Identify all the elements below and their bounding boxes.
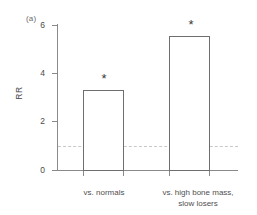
bar-vs-normals xyxy=(83,90,124,171)
y-tick-label-4: 4 xyxy=(31,73,45,74)
x-category-label-2-line-1: vs. high bone mass, xyxy=(162,188,233,197)
bar-vs-high-bone-mass-slow-losers xyxy=(169,36,210,171)
x-tick-mark-3 xyxy=(169,171,170,176)
significance-star-bar-1: * xyxy=(97,72,111,85)
panel-label: (a) xyxy=(26,14,36,23)
y-tick-mark-2 xyxy=(52,121,57,122)
figure-panel-a: (a) RR 0 2 4 6 * * vs. normals vs. high … xyxy=(0,0,257,215)
significance-star-bar-2: * xyxy=(184,18,198,31)
x-category-label-1: vs. normals xyxy=(62,188,146,199)
x-category-label-2-line-2: slow losers xyxy=(178,199,218,208)
y-tick-label-0: 0 xyxy=(31,170,45,171)
y-tick-mark-0 xyxy=(52,170,57,171)
y-tick-label-6: 6 xyxy=(31,25,45,26)
x-tick-mark-2 xyxy=(123,171,124,176)
x-category-label-1-line-1: vs. normals xyxy=(84,188,125,197)
y-axis-line xyxy=(57,24,58,171)
y-tick-label-2: 2 xyxy=(31,121,45,122)
y-tick-mark-4 xyxy=(52,73,57,74)
y-tick-mark-6 xyxy=(52,25,57,26)
x-tick-mark-1 xyxy=(83,171,84,176)
y-axis-title: RR xyxy=(14,73,24,113)
x-tick-mark-4 xyxy=(209,171,210,176)
x-category-label-2: vs. high bone mass, slow losers xyxy=(142,188,254,209)
